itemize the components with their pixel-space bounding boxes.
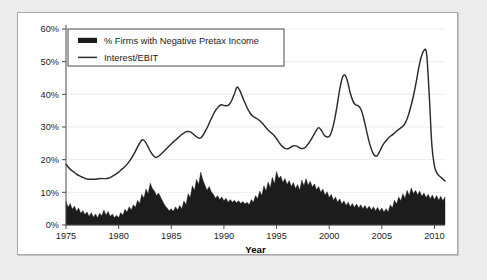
y-tick-label: 30% <box>41 122 59 132</box>
y-tick-label: 20% <box>41 155 59 165</box>
legend-box <box>68 29 284 66</box>
y-tick-label: 40% <box>41 90 59 100</box>
area-path <box>66 171 445 225</box>
chart-panel: 0%10%20%30%40%50%60% 1975198019851990199… <box>17 12 458 255</box>
x-tick-label: 2005 <box>372 231 392 241</box>
legend-item[interactable]: % Firms with Negative Pretax Income <box>78 36 259 46</box>
legend-area-swatch-icon <box>78 38 97 43</box>
line-path <box>66 49 445 181</box>
legend-item-label: % Firms with Negative Pretax Income <box>104 36 259 46</box>
x-tick-label: 1985 <box>161 231 181 241</box>
y-tick-label: 60% <box>41 24 59 34</box>
figure-root: 0%10%20%30%40%50%60% 1975198019851990199… <box>0 0 487 280</box>
y-tick-label: 50% <box>41 57 59 67</box>
y-axis-tick-labels: 0%10%20%30%40%50%60% <box>41 24 59 230</box>
chart-svg: 0%10%20%30%40%50%60% 1975198019851990199… <box>18 13 457 254</box>
x-tick-label: 1990 <box>214 231 234 241</box>
legend-item-label: Interest/EBIT <box>104 53 159 63</box>
y-tick-label: 0% <box>46 220 59 230</box>
x-tick-label: 1980 <box>108 231 128 241</box>
y-tick-label: 10% <box>41 188 59 198</box>
x-axis-title-text: Year <box>245 244 266 254</box>
x-tick-label: 1995 <box>266 231 286 241</box>
x-tick-label: 2000 <box>319 231 339 241</box>
chart-legend[interactable]: % Firms with Negative Pretax IncomeInter… <box>68 29 284 66</box>
x-tick-label: 1975 <box>56 231 76 241</box>
x-axis-tick-labels: 19751980198519901995200020052010 <box>56 231 445 241</box>
line-series-interest-ebit <box>66 49 445 181</box>
x-axis-title: Year <box>245 244 266 254</box>
x-tick-label: 2010 <box>424 231 444 241</box>
area-series-negative-pretax-income <box>66 171 445 225</box>
